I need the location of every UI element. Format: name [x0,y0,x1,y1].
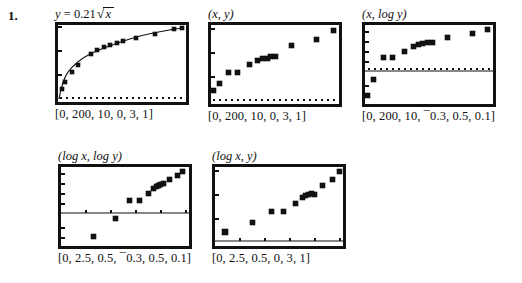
panel-x-logy-title: (x, log y) [362,6,496,22]
y-axis-ticks-5 [215,170,219,220]
panel-x-logy-caption: [0, 200, 10, ¯0.3, 0.5, 0.1] [362,109,496,124]
plot-area-3 [365,25,493,104]
equation-equals: = [64,7,71,21]
plot-area-5 [215,167,343,246]
panel-x-y-title: (x, y) [208,6,342,22]
panel-logx-logy-title: (log x, log y) [58,148,192,164]
radicand: x [104,7,113,21]
panel-x-y-caption: [0, 200, 10, 0, 3, 1] [208,109,342,124]
equation-text: y = 0.21√x [55,7,113,21]
panel-logx-y-title: (log x, y) [212,148,346,164]
panel-logx-y: (log x, y) [212,148,346,266]
panel-x-logy: (x, log y) [362,6,496,124]
data-points-5 [222,169,342,235]
panel-logx-logy: (log x, log y) [58,148,192,266]
y-axis-ticks-2 [211,28,215,78]
y-axis-ticks-1 [58,26,62,76]
calculator-screen-1 [55,22,189,105]
problem-number: 1. [8,8,18,24]
x-axis-ticks-2 [213,99,335,101]
data-points-3 [365,27,490,98]
panel-model-fit-caption: [0, 200, 10, 0, 3, 1] [55,107,189,122]
y-axis-ticks-3 [365,31,369,97]
plot-area-2 [211,25,339,104]
x-axis-ticks-1 [60,97,182,99]
equation-coefficient: 0.21 [74,7,96,21]
calculator-screen-3 [362,22,496,107]
data-points-2 [211,28,336,93]
x-axis-ticks-3 [368,68,490,70]
plot-area-1 [58,25,186,102]
radical-symbol: √x [96,6,113,22]
plot-area-4 [61,167,189,246]
panel-model-fit: y = 0.21√x [55,6,189,122]
y-axis-ticks-4 [61,173,65,239]
data-points-1 [60,26,184,91]
calculator-screen-4 [58,164,192,249]
data-points-4 [91,169,185,239]
equation-lhs: y [55,7,61,21]
panel-logx-logy-caption: [0, 2.5, 0.5, ¯0.3, 0.5, 0.1] [58,251,192,266]
panel-x-y: (x, y) [208,6,342,124]
calculator-screen-5 [212,164,346,249]
panel-model-fit-title: y = 0.21√x [55,6,189,22]
panel-logx-y-caption: [0, 2.5, 0.5, 0, 3, 1] [212,251,346,266]
calculator-screen-2 [208,22,342,107]
